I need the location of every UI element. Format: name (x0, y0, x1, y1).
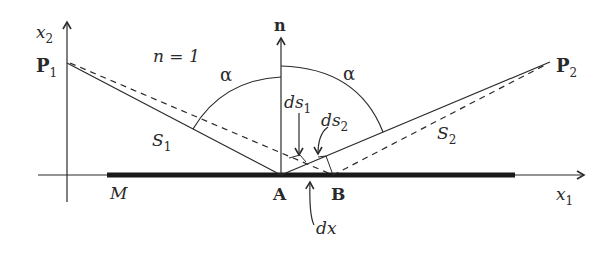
point-b-label: B (331, 184, 345, 204)
point-a-label: A (272, 184, 287, 204)
ray-dashed-2 (333, 65, 545, 175)
dx-arrow (310, 182, 314, 225)
p1-label: P1 (36, 55, 57, 80)
x2-axis-label: x2 (36, 22, 53, 46)
ray-dashed-1 (70, 63, 333, 175)
refractive-index-label: n = 1 (153, 46, 200, 66)
alpha-right-label: α (343, 63, 355, 84)
s1-label: S1 (152, 130, 171, 154)
ds2-arrow (318, 127, 328, 154)
mirror-label: M (109, 183, 128, 203)
ray-s1 (67, 63, 281, 175)
reflection-diagram: x2 P1 P2 n = 1 n α α ds1 ds2 S1 S2 M A B… (0, 0, 614, 254)
ds1-segment (289, 155, 306, 162)
ds1-label: ds1 (284, 92, 311, 116)
s2-label: S2 (437, 123, 456, 147)
normal-label: n (274, 16, 286, 35)
dx-label: dx (316, 218, 337, 238)
p2-label: P2 (556, 55, 577, 80)
alpha-left-label: α (220, 64, 232, 85)
x1-axis-label: x1 (556, 184, 573, 208)
